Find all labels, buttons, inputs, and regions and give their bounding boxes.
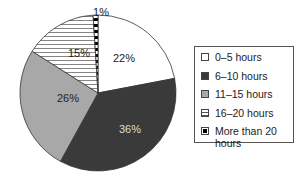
pie-slices [20, 15, 176, 171]
legend-label: More than 20 hours [215, 125, 285, 149]
slice-label: 36% [119, 123, 141, 135]
slice-label: 1% [93, 6, 109, 18]
legend-item-6-10-hours: 6–10 hours [201, 70, 293, 82]
slice-label: 26% [57, 92, 79, 104]
slice-label: 15% [68, 47, 90, 59]
legend-item-11-15-hours: 11–15 hours [201, 88, 293, 100]
swatch-white-icon [201, 53, 209, 61]
legend-item-more-than-20-hours: More than 20 hours [201, 125, 293, 149]
swatch-dark-icon [201, 72, 209, 80]
pie-chart [0, 0, 200, 177]
legend-label: 11–15 hours [215, 88, 273, 100]
swatch-dotted-icon [201, 127, 209, 135]
swatch-gray-icon [201, 90, 209, 98]
slice-label: 22% [113, 52, 135, 64]
swatch-hatch-icon [201, 109, 209, 117]
legend-label: 6–10 hours [215, 70, 268, 82]
legend-item-0-5-hours: 0–5 hours [201, 51, 293, 63]
legend: 0–5 hours 6–10 hours 11–15 hours 16–20 h… [194, 46, 294, 143]
legend-label: 16–20 hours [215, 107, 273, 119]
legend-label: 0–5 hours [215, 51, 262, 63]
legend-item-16-20-hours: 16–20 hours [201, 107, 293, 119]
